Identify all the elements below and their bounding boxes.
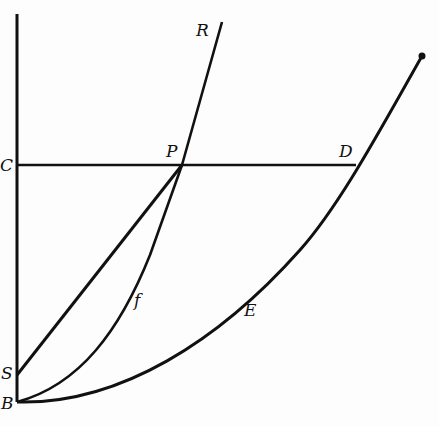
label-f: f (134, 292, 140, 309)
label-b: B (1, 395, 14, 412)
label-e: E (244, 302, 256, 319)
label-p: P (166, 143, 177, 160)
curve-end-dot (419, 53, 426, 60)
curve-bed (17, 56, 422, 402)
line-sp (17, 165, 182, 375)
geometry-figure (0, 0, 439, 426)
label-d: D (339, 143, 353, 160)
label-c: C (0, 157, 13, 174)
diagram-canvas: R C P D f E S B (0, 0, 439, 426)
label-r: R (196, 22, 209, 39)
label-s: S (1, 365, 13, 382)
